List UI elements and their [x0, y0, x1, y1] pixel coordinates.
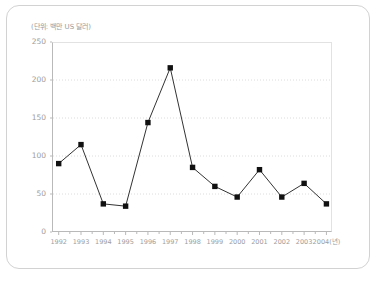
- x-axis-tick-label: 1993: [73, 238, 90, 246]
- x-axis-tick-label: 2001: [251, 238, 268, 246]
- data-point-marker: [101, 201, 106, 206]
- data-point-marker: [190, 165, 195, 170]
- data-point-marker: [212, 184, 217, 189]
- y-axis-tick-label: 50: [20, 190, 46, 198]
- x-axis-tick-label: 1994: [95, 238, 112, 246]
- data-point-marker: [324, 201, 329, 206]
- data-point-marker: [145, 120, 150, 125]
- data-point-marker: [279, 194, 284, 199]
- y-axis-tick-label: 150: [20, 114, 46, 122]
- x-axis-tick-label: 1996: [140, 238, 157, 246]
- x-axis-tick-label: 1998: [184, 238, 201, 246]
- y-axis-tick-label: 200: [20, 76, 46, 84]
- chart-figure: (단위: 백만 US 달러) 050100150200250 199219931…: [0, 0, 378, 282]
- x-axis-tick-label: 2004(년): [313, 238, 341, 246]
- y-axis-tick-label: 250: [20, 38, 46, 46]
- data-point-marker: [123, 203, 128, 208]
- x-axis-tick-label: 1992: [50, 238, 67, 246]
- data-point-marker: [301, 181, 306, 186]
- x-axis-tick-label: 2002: [274, 238, 291, 246]
- data-point-marker: [78, 142, 83, 147]
- data-point-marker: [234, 194, 239, 199]
- y-axis-tick-label: 100: [20, 152, 46, 160]
- data-point-marker: [56, 161, 61, 166]
- x-axis-tick-label: 1999: [207, 238, 224, 246]
- y-axis-tick-label: 0: [20, 228, 46, 236]
- data-point-marker: [168, 65, 173, 70]
- series-line: [59, 68, 327, 206]
- x-axis-tick-label: 2000: [229, 238, 246, 246]
- x-axis-tick-label: 2003: [296, 238, 313, 246]
- data-point-marker: [257, 167, 262, 172]
- x-axis-tick-label: 1997: [162, 238, 179, 246]
- x-axis-tick-label: 1995: [117, 238, 134, 246]
